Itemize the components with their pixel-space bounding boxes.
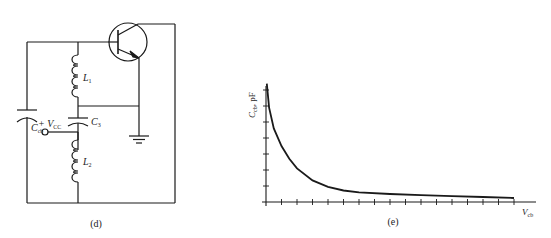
label-l1: L1 — [82, 72, 92, 84]
caption-e: (e) — [387, 216, 398, 228]
y-axis-label: Ccb, pF — [247, 92, 258, 118]
caption-d: (d) — [90, 218, 102, 230]
transistor-icon — [108, 23, 147, 61]
circuit-schematic — [17, 23, 175, 203]
chart-cb-vs-vcb: Ccb, pF Vcb — [247, 84, 536, 218]
inductor-l2-icon — [72, 140, 78, 182]
label-vcc: + VCC — [38, 118, 61, 130]
ground-icon — [129, 136, 149, 143]
capacitance-curve — [267, 84, 514, 198]
label-c3: C3 — [91, 116, 101, 128]
chart-axes — [262, 86, 536, 206]
label-l2: L2 — [82, 156, 92, 168]
inductor-l1-icon — [72, 55, 78, 97]
x-axis-label: Vcb — [522, 207, 533, 218]
figure-canvas: Ccb L1 C3 L2 + VCC (d) Ccb, pF Vcb (e) — [0, 0, 551, 238]
